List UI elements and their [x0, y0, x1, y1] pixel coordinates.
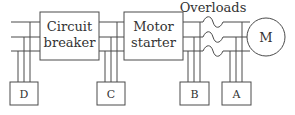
circuit-breaker-block: Circuit breaker — [40, 12, 99, 60]
tap-b-label: B — [190, 88, 198, 101]
overload-heater-icon — [203, 32, 223, 43]
motor-label: M — [259, 30, 272, 45]
tap-a-label: A — [232, 88, 242, 101]
tap-c: C — [97, 82, 125, 105]
tap-b: B — [180, 82, 209, 105]
motor-starter-label-line1: Motor — [133, 19, 174, 34]
circuit-breaker-label-line1: Circuit — [47, 19, 93, 34]
motor-block: M — [247, 18, 285, 56]
starter-to-motor-lines — [183, 17, 250, 82]
incoming-lines — [11, 22, 40, 82]
motor-starter-label-line2: starter — [131, 35, 177, 50]
motor-starter-block: Motor starter — [124, 12, 183, 60]
tap-a: A — [222, 82, 251, 105]
overloads-label: Overloads — [180, 0, 247, 15]
tap-c-label: C — [107, 88, 115, 101]
breaker-to-starter-lines — [99, 22, 124, 82]
circuit-breaker-label-line2: breaker — [44, 35, 97, 50]
overload-heater-icon — [203, 46, 223, 57]
overload-heater-icon — [203, 17, 223, 28]
tap-d: D — [10, 82, 38, 105]
motor-circuit-diagram: Circuit breaker Motor starter Overloads — [0, 0, 295, 115]
tap-d-label: D — [20, 88, 29, 101]
